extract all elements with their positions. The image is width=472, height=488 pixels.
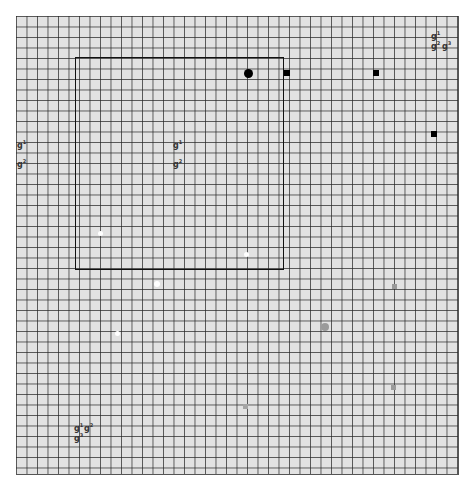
black-circle-icon[interactable]: [244, 69, 253, 78]
unit-glyph-icon[interactable]: g2: [173, 157, 182, 169]
black-square-icon[interactable]: [373, 70, 379, 76]
white-dot-icon[interactable]: [98, 231, 103, 236]
grey-square-icon[interactable]: [243, 404, 248, 409]
unit-glyph-icon[interactable]: g2: [431, 39, 440, 51]
white-dot-icon[interactable]: [154, 281, 160, 287]
unit-glyph-icon[interactable]: g2: [17, 157, 26, 169]
grey-square-icon[interactable]: [391, 385, 396, 390]
unit-glyph-icon[interactable]: g1: [17, 138, 26, 150]
black-square-icon[interactable]: [284, 70, 290, 76]
grey-circle-icon[interactable]: [321, 323, 329, 331]
white-dot-icon[interactable]: [115, 331, 120, 336]
unit-glyph-icon[interactable]: g1: [173, 138, 182, 150]
white-dot-icon[interactable]: [244, 252, 249, 257]
grey-square-icon[interactable]: [392, 284, 397, 289]
black-square-icon[interactable]: [431, 131, 437, 137]
unit-glyph-icon[interactable]: g2: [84, 421, 93, 433]
unit-glyph-icon[interactable]: g3: [74, 431, 83, 443]
unit-glyph-icon[interactable]: g3: [442, 39, 451, 51]
